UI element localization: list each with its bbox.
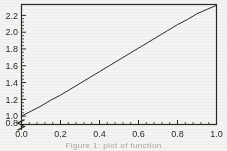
y-tick-label: 1.8 (5, 44, 18, 54)
x-tick-label: 0.0 (15, 129, 28, 139)
y-break-tick-label: 0.8 (5, 118, 18, 128)
x-tick-label: 1.0 (210, 129, 223, 139)
y-tick-label: 1.4 (5, 78, 18, 88)
x-tick-label: 0.4 (93, 129, 106, 139)
x-tick-label: 0.6 (132, 129, 145, 139)
y-axis-break-label: 0.8 (5, 118, 18, 128)
x-tick-label: 0.8 (171, 129, 184, 139)
line-chart: 0.00.20.40.60.81.0 1.01.21.41.61.82.02.2… (0, 0, 227, 151)
y-tick-label: 2.2 (5, 11, 18, 21)
figure-caption: Figure 1: plot of function (0, 141, 227, 151)
y-tick-label: 1.6 (5, 61, 18, 71)
y-tick-label: 1.2 (5, 95, 18, 105)
y-tick-label: 2.0 (5, 27, 18, 37)
x-tick-label: 0.2 (54, 129, 67, 139)
chart-background (0, 0, 227, 151)
figure-container: 0.00.20.40.60.81.0 1.01.21.41.61.82.02.2… (0, 0, 227, 151)
